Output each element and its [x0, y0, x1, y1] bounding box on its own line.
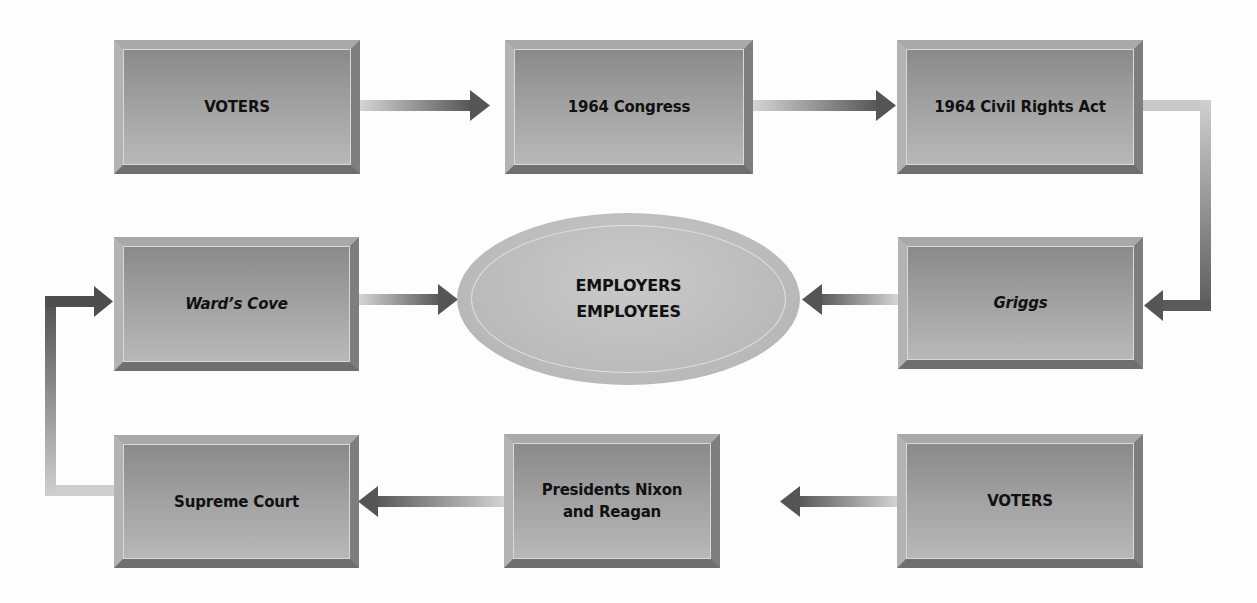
arrow-voters-to-presidents: [780, 486, 898, 517]
arrow-civil-rights-act-to-griggs: [1143, 100, 1211, 321]
arrow-voters-to-congress: [360, 90, 490, 121]
center-line-1: EMPLOYERS: [576, 273, 682, 299]
node-wards-cove: Ward’s Cove: [114, 237, 359, 371]
center-ellipse-employers-employees: EMPLOYERS EMPLOYEES: [457, 213, 800, 385]
node-label: Supreme Court: [174, 491, 299, 513]
node-label: 1964 Civil Rights Act: [934, 96, 1105, 118]
node-voters-top: VOTERS: [114, 40, 360, 174]
node-voters-bottom: VOTERS: [897, 434, 1143, 568]
node-label: 1964 Congress: [568, 96, 691, 118]
arrow-presidents-to-supreme-court: [358, 486, 506, 517]
node-1964-congress: 1964 Congress: [505, 40, 753, 174]
node-supreme-court: Supreme Court: [114, 435, 359, 568]
node-label-line-2: and Reagan: [563, 501, 661, 523]
arrow-supreme-court-to-wards-cove: [45, 286, 115, 496]
node-label: Griggs: [993, 292, 1047, 314]
node-label: VOTERS: [204, 96, 270, 118]
arrow-wards-cove-to-employers: [359, 284, 458, 315]
node-label: VOTERS: [987, 490, 1053, 512]
arrow-congress-to-civil-rights-act: [753, 90, 896, 121]
node-presidents-nixon-reagan: Presidents Nixon and Reagan: [504, 434, 720, 568]
node-label: Ward’s Cove: [185, 293, 288, 315]
node-label-line-1: Presidents Nixon: [542, 479, 683, 501]
ellipse-ring: EMPLOYERS EMPLOYEES: [471, 225, 786, 373]
node-griggs: Griggs: [898, 237, 1143, 369]
arrow-griggs-to-employers: [802, 284, 898, 315]
node-1964-civil-rights-act: 1964 Civil Rights Act: [897, 40, 1143, 174]
center-line-2: EMPLOYEES: [576, 299, 680, 325]
flow-diagram: VOTERS 1964 Congress 1964 Civil Rights A…: [0, 0, 1257, 603]
